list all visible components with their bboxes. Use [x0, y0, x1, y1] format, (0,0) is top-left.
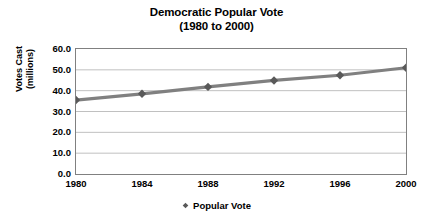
chart-container: Democratic Popular Vote (1980 to 2000) V… — [0, 0, 433, 223]
data-point-marker — [336, 71, 344, 79]
y-axis-tick-label: 50.0 — [31, 65, 71, 75]
x-axis-tick-label: 1988 — [178, 178, 238, 189]
series-line — [76, 68, 406, 100]
chart-title-line1: Democratic Popular Vote — [150, 6, 284, 18]
y-axis-tick-label: 60.0 — [31, 44, 71, 54]
x-axis-tick-label: 1984 — [112, 178, 172, 189]
y-axis-title-line1: Votes Cast — [14, 9, 25, 129]
y-axis-tick-label: 40.0 — [31, 86, 71, 96]
x-axis-tick-label: 1992 — [244, 178, 304, 189]
x-axis-tick-label: 1996 — [310, 178, 370, 189]
data-point-marker — [76, 96, 80, 104]
data-point-marker — [402, 64, 406, 72]
data-point-marker — [270, 76, 278, 84]
y-axis-tick-label: 20.0 — [31, 127, 71, 137]
y-axis-tick-label: 30.0 — [31, 107, 71, 117]
diamond-marker-icon — [182, 202, 189, 209]
plot-area — [75, 48, 407, 175]
y-axis-tick-label: 10.0 — [31, 148, 71, 158]
chart-title-line2: (1980 to 2000) — [0, 19, 433, 33]
plot-svg — [76, 49, 406, 174]
x-axis-tick-labels: 198019841988199219962000 — [75, 178, 407, 192]
x-axis-tick-label: 2000 — [376, 178, 433, 189]
y-axis-tick-labels: 60.050.040.030.020.010.00.0 — [28, 48, 71, 175]
x-axis-tick-label: 1980 — [46, 178, 106, 189]
legend-label: Popular Vote — [193, 200, 251, 211]
chart-title: Democratic Popular Vote (1980 to 2000) — [0, 5, 433, 33]
data-point-marker — [204, 83, 212, 91]
chart-legend: Popular Vote — [0, 200, 433, 211]
